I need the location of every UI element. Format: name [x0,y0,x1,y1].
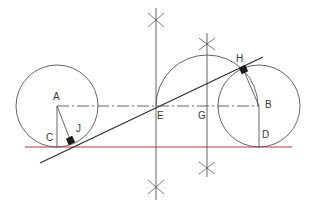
label-d: D [262,129,269,140]
diagram-svg: A B C D E G H J [0,0,314,211]
diagram-canvas: A B C D E G H J [0,0,314,211]
label-a: A [53,91,60,102]
label-g: G [198,110,206,121]
label-e: E [157,110,164,121]
label-j: J [76,123,81,134]
label-b: B [265,99,272,110]
tangent-marker-h [239,65,248,74]
radius-b-h [243,69,259,106]
label-c: C [46,132,53,143]
label-h: H [236,53,243,64]
radius-a-j [57,106,71,142]
